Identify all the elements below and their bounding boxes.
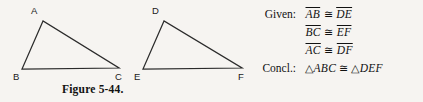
statement-expression: AB≅DE [296,8,353,21]
statement-row: Concl.:△ABC≅△DEF [252,62,423,80]
triangle-symbol-icon: △ [305,63,314,74]
congruent-symbol-icon: ≅ [336,62,351,74]
congruent-symbol-icon: ≅ [321,26,336,38]
segment-left: AC [305,44,321,56]
figure-caption: Figure 5-44. [62,83,124,95]
geometry-figure: A B C D E F Figure 5-44. [0,0,255,102]
segment-right: DF [336,44,353,56]
segment-left: BC [305,26,321,38]
vertex-label-e: E [134,72,140,82]
triangle-right: △DEF [351,62,383,74]
vertex-label-f: F [238,72,244,82]
statement-row: BC≅EF [252,26,423,44]
statement-row: Given:AB≅DE [252,8,423,26]
segment-right: EF [336,26,352,38]
statement-expression: △ABC≅△DEF [296,62,383,75]
triangle-left: △ABC [305,62,336,74]
vertex-label-a: A [31,6,37,16]
triangle-abc [22,21,119,69]
given-conclusion-block: Given:AB≅DEBC≅EFAC≅DFConcl.:△ABC≅△DEF [252,8,423,80]
congruent-symbol-icon: ≅ [321,44,336,56]
statement-expression: AC≅DF [296,44,353,57]
vertex-label-d: D [152,6,159,16]
vertex-label-b: B [13,72,19,82]
segment-right: DE [336,8,353,20]
triangles-drawing [0,0,255,80]
triangle-name: ABC [314,62,337,74]
statement-row: AC≅DF [252,44,423,62]
vertex-label-c: C [115,72,122,82]
figure-page: A B C D E F Figure 5-44. Given:AB≅DEBC≅E… [0,0,423,102]
conclusion-key: Concl.: [252,62,296,74]
statement-expression: BC≅EF [296,26,352,39]
triangle-def [143,21,242,69]
given-key: Given: [252,8,296,20]
segment-left: AB [305,8,321,20]
triangle-symbol-icon: △ [351,63,360,74]
congruent-symbol-icon: ≅ [321,8,336,20]
triangle-name: DEF [360,62,383,74]
